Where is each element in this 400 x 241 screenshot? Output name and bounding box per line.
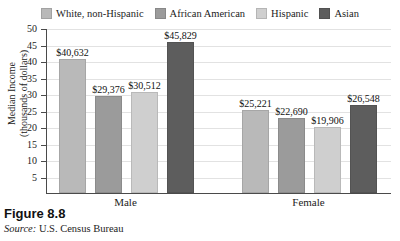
y-axis-tick-label: 25 (0, 107, 37, 117)
legend-swatch-icon (256, 8, 267, 19)
y-axis-tick-label: 30 (0, 90, 37, 100)
source-text: U.S. Census Bureau (39, 223, 124, 234)
bar-value-label: $19,906 (303, 115, 352, 126)
legend-item-label: Asian (334, 8, 359, 19)
grid-line (47, 46, 391, 47)
bar-value-label: $30,512 (120, 80, 169, 91)
grid-line (47, 62, 391, 63)
legend-item: White, non-Hispanic (41, 8, 143, 19)
legend-item-label: Hispanic (271, 8, 308, 19)
y-axis-tick-label: 15 (0, 140, 37, 150)
clipped-title-remnant: ............. (0, 0, 400, 5)
legend-item: Asian (319, 8, 359, 19)
bar (59, 59, 86, 193)
y-axis-tick-label: 50 (0, 24, 37, 34)
bar (131, 92, 158, 193)
bar (95, 96, 122, 193)
y-axis-tick-label: 10 (0, 156, 37, 166)
bar-value-label: $26,548 (339, 93, 388, 104)
legend-swatch-icon (155, 8, 166, 19)
figure-source: Source: U.S. Census Bureau (4, 222, 396, 235)
y-axis-tick-label: 5 (0, 173, 37, 183)
y-axis-tick-label: 45 (0, 41, 37, 51)
legend-swatch-icon (41, 8, 52, 19)
bar (314, 127, 341, 193)
legend-item: Hispanic (256, 8, 308, 19)
grid-line (47, 29, 391, 30)
legend-item-label: African American (170, 8, 246, 19)
legend-item: African American (155, 8, 246, 19)
y-axis-tick-label: 20 (0, 123, 37, 133)
figure-number: Figure 8.8 (4, 206, 396, 221)
bar (167, 42, 194, 193)
bar (278, 118, 305, 193)
plot-area: $40,632$29,376$30,512$45,829$25,221$22,6… (46, 29, 391, 194)
y-axis-tick-label: 35 (0, 74, 37, 84)
chart-legend: White, non-HispanicAfrican AmericanHispa… (0, 6, 400, 21)
bar (350, 105, 377, 193)
bar (242, 110, 269, 193)
grid-line (47, 79, 391, 80)
legend-item-label: White, non-Hispanic (56, 8, 143, 19)
chart-area: Median Income (thousands of dollars) 504… (0, 24, 400, 204)
legend-swatch-icon (319, 8, 330, 19)
source-prefix: Source: (4, 223, 36, 234)
bar-value-label: $40,632 (48, 47, 97, 58)
figure-caption: Figure 8.8 Source: U.S. Census Bureau (4, 206, 396, 235)
bar-value-label: $45,829 (156, 30, 205, 41)
y-axis-tick-label: 40 (0, 57, 37, 67)
